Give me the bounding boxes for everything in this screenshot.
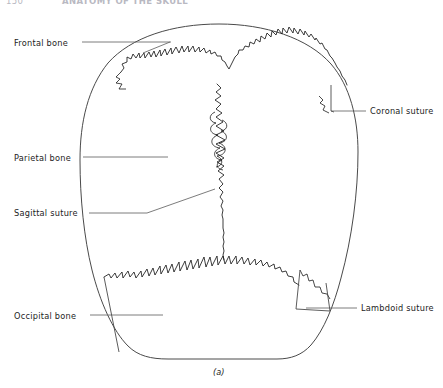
sagittal-suture-path [215, 84, 225, 260]
figure-caption: (a) [213, 367, 224, 377]
label-frontal-bone: Frontal bone [14, 38, 68, 48]
lambdoid-suture-path [104, 256, 299, 285]
occipital-right-border [296, 270, 300, 309]
label-occipital-bone: Occipital bone [14, 311, 76, 321]
skull-outline [80, 24, 358, 359]
occipital-right-base [296, 309, 330, 311]
lambdoid-suture-right-detail [300, 270, 330, 299]
coronal-suture-path [121, 27, 347, 85]
label-sagittal-suture: Sagittal suture [14, 208, 78, 218]
label-coronal-suture: Coronal suture [370, 106, 434, 116]
label-lambdoid-suture: Lambdoid suture [361, 303, 434, 313]
skull-diagram [0, 0, 443, 388]
occipital-right-border-2 [326, 283, 330, 311]
leader-sagittal-suture [89, 189, 215, 213]
coronal-suture-right-detail [319, 96, 329, 113]
coronal-suture-left-detail [116, 72, 126, 89]
label-parietal-bone: Parietal bone [14, 153, 71, 163]
occipital-left-border [104, 277, 119, 352]
